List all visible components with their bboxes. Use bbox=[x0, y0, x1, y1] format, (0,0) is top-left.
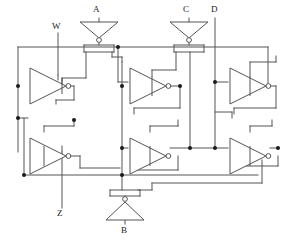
tristate-inverter-top-middle-body bbox=[130, 68, 166, 104]
tristate-inverter-bottom-middle bbox=[130, 138, 171, 174]
circuit-schematic-svg bbox=[0, 0, 287, 243]
junction-dot bbox=[72, 118, 76, 122]
tristate-inverter-top-middle bbox=[130, 68, 171, 104]
inverter-c-body bbox=[170, 22, 208, 38]
tristate-inverter-group bbox=[30, 68, 271, 174]
tristate-inverter-bottom-middle-bubble-icon bbox=[166, 154, 171, 159]
tristate-inverter-bottom-middle-body bbox=[130, 138, 166, 174]
tristate-inverter-top-middle-bubble-icon bbox=[166, 84, 171, 89]
junction-dot bbox=[16, 116, 20, 120]
junction-dot bbox=[22, 173, 26, 177]
tristate-inverter-top-left-body bbox=[30, 68, 66, 104]
junction-dot bbox=[116, 45, 120, 49]
tristate-inverter-bottom-right bbox=[230, 138, 271, 174]
label-input-b: B bbox=[121, 226, 127, 235]
tristate-inverter-top-right-body bbox=[230, 68, 266, 104]
label-input-a: A bbox=[93, 5, 100, 14]
tristate-inverter-top-right-bubble-icon bbox=[266, 84, 271, 89]
tristate-inverter-top-left-bubble-icon bbox=[66, 84, 71, 89]
junction-dot bbox=[213, 80, 217, 84]
label-input-c: C bbox=[183, 5, 189, 14]
junction-dot bbox=[276, 146, 280, 150]
junction-dot bbox=[178, 84, 182, 88]
inverter-c-bubble-icon bbox=[187, 38, 192, 43]
tristate-inverter-top-left bbox=[30, 68, 71, 104]
junction-dot bbox=[120, 173, 124, 177]
inverter-c bbox=[170, 22, 208, 42]
inverter-b bbox=[106, 197, 144, 220]
junction-dot bbox=[188, 146, 192, 150]
tristate-inverter-bottom-left bbox=[30, 138, 71, 174]
label-input-d: D bbox=[211, 5, 218, 14]
junction-dot bbox=[213, 146, 217, 150]
junction-dot bbox=[120, 84, 124, 88]
junction-dot bbox=[120, 146, 124, 150]
inverter-a-body bbox=[80, 22, 118, 38]
inverter-a-bubble-icon bbox=[97, 38, 102, 43]
wire-layer bbox=[18, 18, 278, 224]
inverter-a bbox=[80, 22, 118, 42]
label-input-w: W bbox=[52, 22, 61, 31]
tristate-inverter-bottom-right-body bbox=[230, 138, 266, 174]
label-output-z: Z bbox=[57, 209, 63, 218]
tristate-inverter-bottom-left-body bbox=[30, 138, 66, 174]
tristate-inverter-bottom-right-bubble-icon bbox=[266, 154, 271, 159]
inverter-b-bubble-icon bbox=[123, 197, 128, 202]
circuit-diagram: A C D W B Z bbox=[0, 0, 287, 243]
tristate-inverter-bottom-left-bubble-icon bbox=[66, 154, 71, 159]
inverter-b-body bbox=[106, 202, 144, 220]
junction-dot bbox=[16, 84, 20, 88]
